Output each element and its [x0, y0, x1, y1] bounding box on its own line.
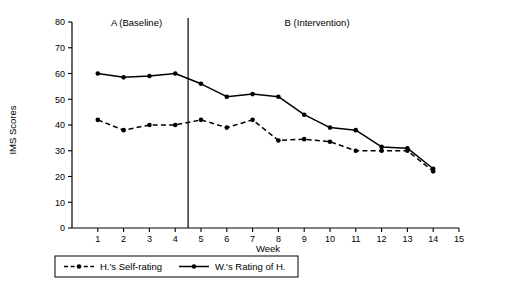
data-point	[147, 123, 152, 128]
y-axis-title: IMS Scores	[7, 105, 18, 154]
x-tick-label: 9	[302, 234, 307, 244]
x-tick-label: 10	[325, 234, 335, 244]
data-point	[276, 94, 281, 99]
y-tick-label: 80	[55, 17, 65, 27]
x-tick-label: 4	[173, 234, 178, 244]
data-point	[276, 138, 281, 143]
legend-label: W.'s Rating of H.	[215, 261, 285, 272]
y-tick-label: 60	[55, 69, 65, 79]
data-point	[121, 75, 126, 80]
data-point	[96, 71, 101, 76]
y-tick-label: 70	[55, 43, 65, 53]
series-2	[96, 71, 436, 171]
data-point	[250, 118, 255, 123]
legend-marker	[192, 264, 197, 269]
data-point	[199, 118, 204, 123]
data-point	[173, 123, 178, 128]
data-point	[328, 139, 333, 144]
figure-container: A (Baseline)B (Intervention) 01020304050…	[0, 0, 510, 287]
x-axis: 123456789101112131415	[72, 228, 464, 244]
x-tick-label: 15	[454, 234, 464, 244]
x-tick-label: 11	[351, 234, 360, 244]
x-tick-label: 5	[198, 234, 203, 244]
series-1	[96, 118, 436, 174]
legend-label: H.'s Self-rating	[100, 261, 162, 272]
data-point	[354, 128, 359, 133]
y-axis: 01020304050607080	[55, 17, 72, 233]
x-tick-label: 7	[250, 234, 255, 244]
y-tick-label: 50	[55, 95, 65, 105]
data-point	[173, 71, 178, 76]
data-point	[354, 148, 359, 153]
data-point	[121, 128, 126, 133]
data-point	[328, 125, 333, 130]
data-point	[225, 94, 230, 99]
data-point	[431, 166, 436, 171]
y-tick-label: 30	[55, 146, 65, 156]
x-tick-label: 12	[377, 234, 387, 244]
data-point	[302, 112, 307, 117]
phase-label: B (Intervention)	[285, 17, 350, 28]
y-tick-label: 40	[55, 120, 65, 130]
y-tick-label: 10	[55, 198, 65, 208]
data-point	[379, 145, 384, 150]
data-point	[250, 92, 255, 97]
x-tick-label: 3	[147, 234, 152, 244]
data-point	[199, 82, 204, 87]
x-axis-title: Week	[256, 243, 280, 254]
data-point	[96, 118, 101, 123]
legend-marker	[77, 264, 82, 269]
y-tick-label: 20	[55, 172, 65, 182]
series-layer	[96, 71, 436, 173]
data-point	[147, 74, 152, 79]
phase-label: A (Baseline)	[111, 17, 162, 28]
data-point	[405, 146, 410, 151]
line-chart: A (Baseline)B (Intervention) 01020304050…	[0, 0, 510, 287]
x-tick-label: 1	[95, 234, 100, 244]
data-point	[302, 137, 307, 142]
series-line	[98, 74, 433, 169]
x-tick-label: 14	[428, 234, 438, 244]
y-tick-label: 0	[60, 223, 65, 233]
data-point	[225, 125, 230, 130]
x-tick-label: 6	[224, 234, 229, 244]
phase-labels: A (Baseline)B (Intervention)	[111, 17, 350, 28]
chart-legend: H.'s Self-ratingW.'s Rating of H.	[55, 256, 298, 277]
x-tick-label: 2	[121, 234, 126, 244]
x-tick-label: 13	[402, 234, 412, 244]
